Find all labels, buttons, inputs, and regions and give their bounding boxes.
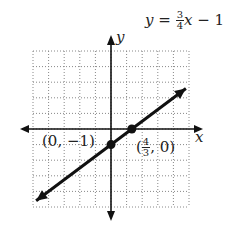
data-point (127, 125, 136, 134)
eq-den: 4 (176, 21, 184, 31)
frac-den: 3 (142, 148, 150, 158)
y-axis (107, 35, 115, 221)
x-intercept-fraction: 43 (142, 137, 150, 158)
eq-fraction: 34 (176, 10, 184, 31)
point-label-x-intercept: (43, 0) (136, 137, 175, 158)
x-axis-label: x (195, 128, 203, 146)
equation-label: y = 34x − 1 (145, 10, 224, 31)
point-label-y-intercept: (0, −1) (42, 132, 95, 150)
eq-sign: = (158, 11, 171, 29)
paren-close: , 0) (150, 138, 175, 156)
eq-lhs: y (145, 11, 153, 29)
eq-rest: − 1 (197, 11, 224, 29)
eq-var: x (184, 11, 192, 29)
data-point (107, 140, 116, 149)
y-axis-label: y (116, 28, 124, 46)
